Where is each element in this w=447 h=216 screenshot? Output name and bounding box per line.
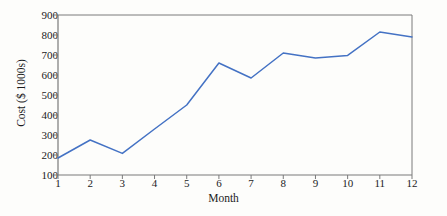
plot-area xyxy=(0,0,447,216)
x-axis-ticks xyxy=(58,175,412,179)
line-chart: Cost ($ 1000s) 1002003004005006007008009… xyxy=(0,0,447,216)
data-series-line xyxy=(58,32,412,158)
axis-frame xyxy=(58,15,412,175)
x-axis-label: Month xyxy=(0,192,447,204)
